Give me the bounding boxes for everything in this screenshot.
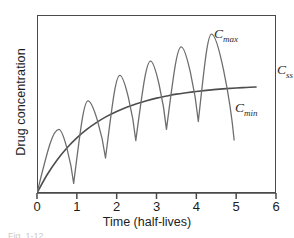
x-tick-label: 5 (226, 199, 246, 214)
x-tick-label: 3 (147, 199, 167, 214)
annotation-cmax: Cmax (214, 26, 238, 44)
caption-fragment: Fig. 1-12 (8, 231, 128, 238)
x-tick-labels: 0123456 (0, 199, 294, 215)
x-tick-label: 6 (266, 199, 286, 214)
x-tick-label: 0 (27, 199, 47, 214)
x-axis-title: Time (half-lives) (0, 215, 294, 229)
x-tick-label: 4 (186, 199, 206, 214)
annotation-cmin: Cmin (235, 100, 258, 118)
annotation-css: Css (277, 62, 293, 80)
x-tick-label: 1 (67, 199, 87, 214)
figure: Drug concentration Cmax Css Cmin 0123456… (0, 0, 294, 238)
x-tick-label: 2 (107, 199, 127, 214)
